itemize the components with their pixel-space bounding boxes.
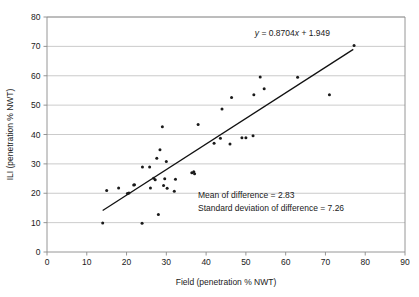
annotation-1: Mean of difference = 2.83 <box>198 190 295 200</box>
data-point <box>162 184 165 187</box>
data-point <box>149 186 152 189</box>
x-axis-title: Field (penetration % NWT) <box>176 277 277 287</box>
x-tick-label-0: 0 <box>45 257 50 267</box>
data-point <box>161 125 164 128</box>
y-tick-label-60: 60 <box>31 71 41 81</box>
y-tick-label-10: 10 <box>31 218 41 228</box>
y-tick-label-40: 40 <box>31 130 41 140</box>
data-point <box>263 87 266 90</box>
data-point <box>148 166 151 169</box>
trendline-equation: y = 0.8704x + 1.949 <box>254 28 330 38</box>
data-point <box>165 160 168 163</box>
data-point <box>141 222 144 225</box>
x-tick-labels: 0102030405060708090 <box>45 257 410 267</box>
chart-canvas: 010203040506070809001020304050607080Fiel… <box>0 0 419 297</box>
data-point <box>328 93 331 96</box>
data-point <box>158 148 161 151</box>
data-point <box>230 96 233 99</box>
data-point <box>197 123 200 126</box>
x-tick-label-60: 60 <box>281 257 291 267</box>
data-point <box>105 189 108 192</box>
equation-intercept: + 1.949 <box>299 28 330 38</box>
data-point <box>141 166 144 169</box>
data-point <box>240 136 243 139</box>
data-point <box>173 190 176 193</box>
data-point <box>296 76 299 79</box>
x-tick-label-80: 80 <box>360 257 370 267</box>
x-tick-label-30: 30 <box>162 257 172 267</box>
data-point <box>193 172 196 175</box>
data-point <box>157 213 160 216</box>
data-point <box>252 134 255 137</box>
data-point <box>252 93 255 96</box>
data-point <box>155 157 158 160</box>
trend-line <box>103 49 354 210</box>
annotation-2: Standard deviation of difference = 7.26 <box>198 203 344 213</box>
x-tick-label-50: 50 <box>241 257 251 267</box>
data-point <box>353 44 356 47</box>
data-point <box>213 142 216 145</box>
data-point <box>133 183 136 186</box>
y-tick-label-20: 20 <box>31 188 41 198</box>
x-tick-label-40: 40 <box>201 257 211 267</box>
x-tick-label-70: 70 <box>321 257 331 267</box>
data-point <box>154 178 157 181</box>
data-point <box>117 186 120 189</box>
data-point <box>163 177 166 180</box>
data-point <box>127 191 130 194</box>
y-tick-label-50: 50 <box>31 100 41 110</box>
data-point <box>219 137 222 140</box>
scatter-plot-figure: 010203040506070809001020304050607080Fiel… <box>0 0 419 297</box>
y-axis-title: ILI (penetration % NWT) <box>5 89 15 181</box>
tick-marks <box>44 17 406 256</box>
equation-coefficient: = 0.8704 <box>259 28 295 38</box>
x-tick-label-10: 10 <box>82 257 92 267</box>
data-point <box>166 187 169 190</box>
data-point <box>244 136 247 139</box>
y-tick-label-80: 80 <box>31 12 41 22</box>
data-point <box>259 75 262 78</box>
data-point <box>174 178 177 181</box>
x-tick-label-90: 90 <box>400 257 410 267</box>
y-tick-labels: 01020304050607080 <box>31 12 41 257</box>
data-point <box>101 221 104 224</box>
y-tick-label-70: 70 <box>31 41 41 51</box>
data-point <box>221 107 224 110</box>
y-tick-label-0: 0 <box>36 247 41 257</box>
data-point <box>228 142 231 145</box>
x-tick-label-20: 20 <box>122 257 132 267</box>
y-tick-label-30: 30 <box>31 159 41 169</box>
